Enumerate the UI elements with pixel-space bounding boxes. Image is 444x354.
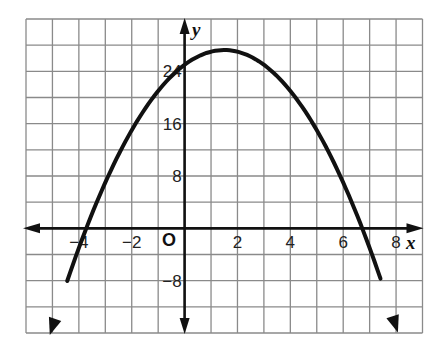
y-axis-bottom-arrow-icon <box>180 318 190 334</box>
parabola-path <box>67 50 380 281</box>
y-tick-label: 16 <box>163 115 182 134</box>
x-tick-label: 6 <box>338 233 347 252</box>
parabola-curve <box>49 50 399 335</box>
chart-area: −4−2246824168−8 x y O <box>0 0 444 354</box>
x-tick-label: 8 <box>391 233 400 252</box>
x-tick-label: 2 <box>233 233 242 252</box>
y-axis-label: y <box>190 19 201 40</box>
origin-label: O <box>162 230 176 250</box>
x-tick-label: −2 <box>122 233 141 252</box>
curve-left-arrow-icon <box>49 317 61 335</box>
grid-lines <box>26 19 423 333</box>
x-tick-label: 4 <box>286 233 295 252</box>
y-axis-top-arrow-icon <box>180 18 190 34</box>
y-tick-label: 8 <box>172 167 181 186</box>
x-axis-label: x <box>405 232 416 253</box>
y-tick-label: −8 <box>162 272 181 291</box>
curve-right-arrow-icon <box>386 314 398 332</box>
